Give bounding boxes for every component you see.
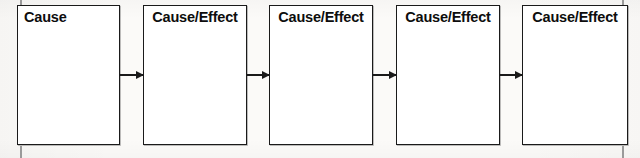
diagram-node-label: Cause — [18, 9, 119, 26]
diagram-node-cause-effect-2[interactable]: Cause/Effect — [269, 5, 373, 145]
diagram-node-cause-effect-1[interactable]: Cause/Effect — [143, 5, 247, 145]
diagram-node-cause-effect-4[interactable]: Cause/Effect — [522, 5, 628, 145]
diagram-canvas: Cause Cause/Effect Cause/Effect Cause/Ef… — [0, 0, 640, 158]
arrow-connector-4 — [500, 74, 522, 76]
diagram-node-label: Cause/Effect — [397, 9, 499, 26]
diagram-node-cause-effect-3[interactable]: Cause/Effect — [396, 5, 500, 145]
diagram-node-label: Cause/Effect — [523, 9, 627, 26]
diagram-node-label: Cause/Effect — [144, 9, 246, 26]
arrow-connector-1 — [120, 74, 143, 76]
diagram-node-cause[interactable]: Cause — [17, 5, 120, 145]
diagram-node-label: Cause/Effect — [270, 9, 372, 26]
crop-mark-bottom-right-icon — [622, 146, 624, 158]
crop-mark-bottom-left-icon — [20, 146, 22, 158]
arrow-connector-2 — [247, 74, 269, 76]
arrow-connector-3 — [373, 74, 396, 76]
